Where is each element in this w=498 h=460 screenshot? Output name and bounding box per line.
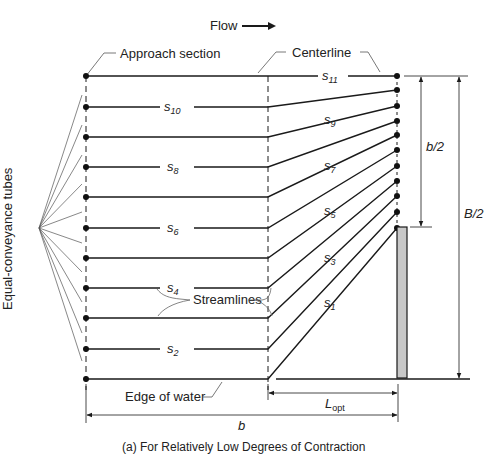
B-half-label: B/2 <box>464 206 484 221</box>
approach-section-label: Approach section <box>120 46 220 61</box>
streamline-diagram: Flow Approach section Centerline <box>0 0 498 460</box>
caption: (a) For Relatively Low Degrees of Contra… <box>122 440 365 454</box>
tubes-fan <box>39 95 82 361</box>
streamlines <box>86 76 470 379</box>
centerline-leader-right <box>360 52 380 72</box>
svg-text:s7: s7 <box>324 158 337 175</box>
flow-arrow-icon <box>242 22 276 30</box>
edge-of-water-label: Edge of water <box>125 389 206 404</box>
equal-conveyance-tubes-label: Equal-conveyance tubes <box>0 167 15 310</box>
streamlines-label: Streamlines <box>193 292 262 307</box>
svg-text:s5: s5 <box>324 203 337 220</box>
L-opt-label: Lopt <box>325 396 345 413</box>
flow-label: Flow <box>210 18 238 33</box>
approach-leader <box>86 53 116 76</box>
b-label: b <box>238 418 245 433</box>
centerline-label: Centerline <box>292 45 351 60</box>
abutment <box>397 227 407 378</box>
b-half-label: b/2 <box>426 139 445 154</box>
centerline-leader-left <box>258 52 286 73</box>
svg-text:s3: s3 <box>324 250 336 267</box>
svg-text:s1: s1 <box>324 295 336 312</box>
diagram-canvas: Flow Approach section Centerline <box>0 0 498 460</box>
svg-text:s9: s9 <box>324 112 336 129</box>
